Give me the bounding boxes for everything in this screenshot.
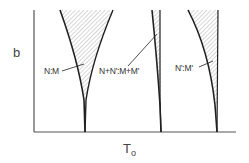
region-label-n-prime-m-prime: N':M' xyxy=(175,64,193,73)
phase-diagram: b To N:M N+N':M+M' N':M' xyxy=(0,0,249,163)
region-n-m xyxy=(60,10,113,100)
x-axis-label: To xyxy=(123,142,136,158)
region-label-nn-mm: N+N':M+M' xyxy=(99,67,139,76)
region-label-n-m: N:M xyxy=(44,67,59,76)
x-axis-label-subscript: o xyxy=(131,148,136,158)
leader-nn-mm xyxy=(128,34,157,66)
x-axis-label-main: T xyxy=(123,141,131,156)
diagram-canvas xyxy=(0,0,249,163)
boundary-right-2 xyxy=(160,10,161,132)
y-axis-label: b xyxy=(13,46,20,59)
